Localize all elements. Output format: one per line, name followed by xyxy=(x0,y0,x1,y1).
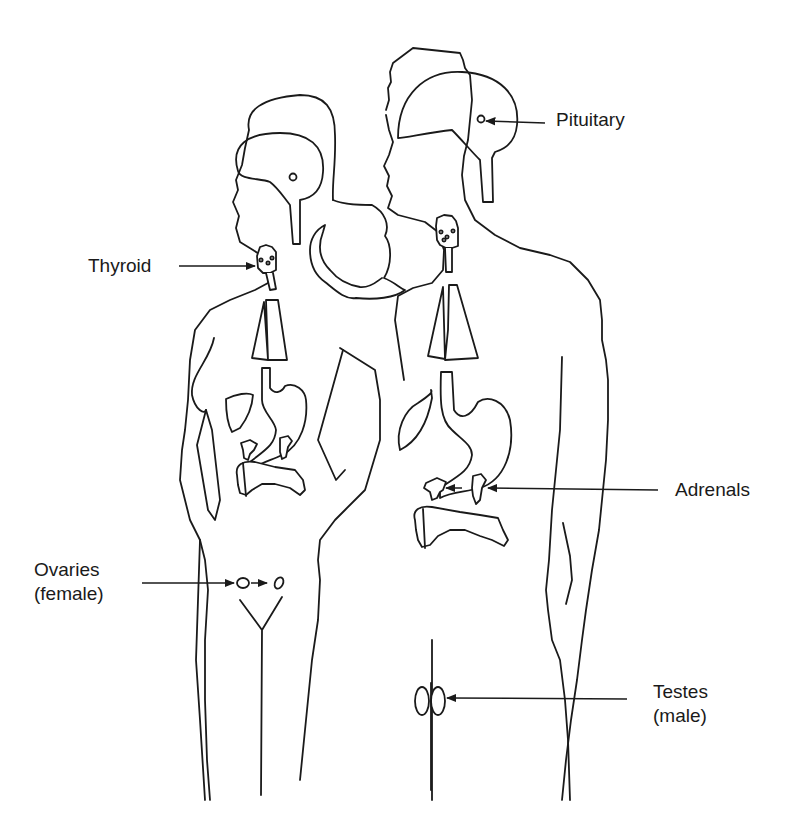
testes-label-line2: (male) xyxy=(653,704,708,728)
testis-left xyxy=(415,687,429,715)
ovaries-label-line1: Ovaries xyxy=(34,558,104,582)
thyroid-label-text: Thyroid xyxy=(88,254,151,278)
male-arm xyxy=(546,357,570,800)
ovary-left xyxy=(237,578,249,588)
female-pelvis xyxy=(240,597,282,795)
female-pituitary-gland xyxy=(290,174,297,181)
female-torso xyxy=(192,338,214,412)
female-figure xyxy=(180,95,405,800)
ovaries-label-line2: (female) xyxy=(34,582,104,606)
female-liver xyxy=(226,394,253,432)
female-arm xyxy=(300,348,380,780)
pituitary-label-text: Pituitary xyxy=(556,108,625,132)
female-brain xyxy=(236,133,323,244)
female-stomach xyxy=(250,368,306,468)
female-body-outline xyxy=(180,95,335,800)
testes-label-line1: Testes xyxy=(653,680,708,704)
female-lungs xyxy=(252,300,287,360)
male-brain xyxy=(398,72,517,202)
label-thyroid: Thyroid xyxy=(88,254,151,278)
male-liver xyxy=(399,390,432,450)
male-figure xyxy=(384,48,608,800)
adrenals-label-text: Adrenals xyxy=(675,478,750,502)
label-adrenals: Adrenals xyxy=(675,478,750,502)
ovary-right xyxy=(273,576,285,590)
label-pituitary: Pituitary xyxy=(556,108,625,132)
testes-leader xyxy=(447,698,627,699)
female-adrenal-gland-left xyxy=(241,440,257,460)
testis-right xyxy=(431,687,445,715)
female-pancreas xyxy=(237,462,305,495)
male-pancreas xyxy=(414,507,508,547)
label-ovaries: Ovaries (female) xyxy=(34,558,104,606)
adrenals-leader xyxy=(488,488,658,490)
label-testes: Testes (male) xyxy=(653,680,708,728)
female-ponytail xyxy=(310,200,405,299)
male-adrenal-gland-right xyxy=(472,474,486,504)
pituitary-leader xyxy=(486,121,545,123)
male-pituitary-gland xyxy=(478,116,485,123)
male-lungs xyxy=(428,285,478,360)
